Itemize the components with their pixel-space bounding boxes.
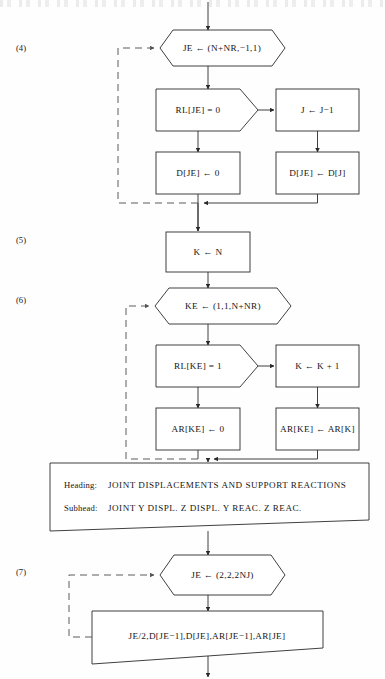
node-decision-rl-ke-label: RL[KE] = 1 xyxy=(174,361,222,371)
output-subhead-label: Subhead: xyxy=(64,503,98,513)
node-loop-ke-forward-label: KE ← (1,1,N+NR) xyxy=(185,301,261,311)
node-assign-d-je-dj-label: D[JE] ← D[J] xyxy=(289,168,345,178)
step-label-4: (4) xyxy=(16,43,26,53)
connector-merge6-right xyxy=(214,450,318,459)
node-assign-d-je-zero-label: D[JE] ← 0 xyxy=(176,168,220,178)
flowchart-page: (4) (5) (6) (7) JE ← (N+NR,−1,1) RL[JE] … xyxy=(0,0,385,679)
node-assign-ar-ke-zero-label: AR[KE] ← 0 xyxy=(171,424,224,434)
output-heading-value: JOINT DISPLACEMENTS AND SUPPORT REACTION… xyxy=(108,480,346,490)
node-assign-j-minus-label: J ← J−1 xyxy=(301,105,334,115)
node-assign-ar-ke-ark-label: AR[KE] ← AR[K] xyxy=(280,424,355,434)
node-loop-je-pairs-label: JE ← (2,2,2NJ) xyxy=(191,570,254,580)
node-assign-k-plus-label: K ← K + 1 xyxy=(295,361,340,371)
node-output-values-label: JE/2,D[JE−1],D[JE],AR[JE−1],AR[JE] xyxy=(129,631,286,641)
node-assign-k-n-label: K ← N xyxy=(194,247,223,257)
output-subhead-value: JOINT Y DISPL. Z DISPL. Y REAC. Z REAC. xyxy=(108,503,302,513)
connector-merge4-right xyxy=(204,194,318,203)
output-heading-label: Heading: xyxy=(64,480,97,490)
node-decision-rl-je-label: RL[JE] = 0 xyxy=(176,105,221,115)
flowchart-canvas: (4) (5) (6) (7) JE ← (N+NR,−1,1) RL[JE] … xyxy=(0,0,385,679)
step-label-7: (7) xyxy=(16,567,26,577)
node-loop-je-reverse-label: JE ← (N+NR,−1,1) xyxy=(183,43,261,53)
step-label-5: (5) xyxy=(16,235,26,245)
step-label-6: (6) xyxy=(16,295,26,305)
node-output-headings xyxy=(50,463,369,531)
